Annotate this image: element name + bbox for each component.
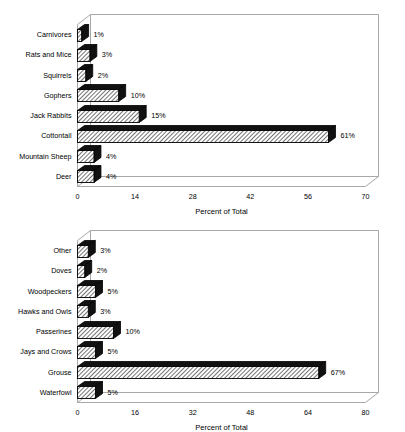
bar-jays-and-crows (78, 342, 103, 359)
value-label: 4% (106, 152, 117, 161)
value-label: 15% (151, 111, 166, 120)
bar-front-face (78, 30, 82, 42)
value-label: 10% (126, 327, 141, 336)
mammals-bar-chart: Carnivores1%Rats and Mice3%Squirrels2%Go… (0, 0, 405, 216)
value-label: 5% (108, 347, 119, 356)
x-tick-label: 0 (76, 408, 80, 417)
category-label: Deer (56, 172, 72, 181)
value-label: 4% (106, 172, 117, 181)
bar-doves (78, 261, 92, 278)
value-label: 67% (331, 368, 346, 377)
category-label: Gophers (44, 91, 72, 100)
bar-front-face (78, 387, 96, 399)
birds-chart-canvas: Other3%Doves2%Woodpeckers5%Hawks and Owl… (0, 216, 405, 432)
bar-top-face (78, 85, 126, 90)
bar-front-face (78, 286, 96, 298)
x-tick-label: 48 (246, 408, 254, 417)
value-label: 1% (94, 30, 105, 39)
bar-carnivores (78, 25, 89, 42)
bar-front-face (78, 171, 94, 183)
value-label: 2% (97, 266, 108, 275)
bar-front-face (78, 327, 114, 339)
bar-jack-rabbits (78, 106, 147, 123)
category-label: Squirrels (43, 71, 72, 80)
mammals-chart-canvas: Carnivores1%Rats and Mice3%Squirrels2%Go… (0, 0, 405, 216)
x-axis-title: Percent of Total (195, 207, 248, 216)
x-tick-label: 28 (189, 192, 197, 201)
x-axis-title: Percent of Total (195, 423, 248, 432)
value-label: 10% (131, 91, 146, 100)
x-tick-label: 80 (362, 408, 370, 417)
value-label: 5% (108, 287, 119, 296)
category-label: Woodpeckers (28, 287, 72, 296)
bar-other (78, 241, 96, 258)
value-label: 5% (108, 388, 119, 397)
bar-grouse (78, 362, 326, 379)
bar-cottontail (78, 126, 336, 143)
category-label: Carnivores (37, 30, 72, 39)
bar-waterfowl (78, 382, 103, 399)
value-label: 2% (98, 71, 109, 80)
bar-front-face (78, 347, 96, 359)
bar-front-face (78, 111, 140, 123)
bar-passerines (78, 322, 121, 339)
bar-front-face (78, 246, 89, 258)
category-label: Doves (51, 266, 72, 275)
category-label: Jack Rabbits (30, 111, 72, 120)
bar-hawks-and-owls (78, 301, 96, 318)
category-label: Hawks and Owls (18, 307, 72, 316)
birds-bar-chart: Other3%Doves2%Woodpeckers5%Hawks and Owl… (0, 216, 405, 432)
value-label: 3% (102, 50, 113, 59)
category-label: Cottontail (41, 131, 72, 140)
x-tick-label: 42 (246, 192, 254, 201)
bar-front-face (78, 70, 86, 82)
labels-group: Carnivores1%Rats and Mice3%Squirrels2%Go… (19, 30, 355, 181)
x-tick-label: 64 (304, 408, 312, 417)
chart-frame-3d (78, 15, 379, 187)
category-label: Mountain Sheep (19, 152, 71, 161)
x-axis-ticks: 01428425670 (76, 192, 370, 201)
value-label: 3% (100, 307, 111, 316)
category-label: Passerines (36, 327, 72, 336)
chart-page: Carnivores1%Rats and Mice3%Squirrels2%Go… (0, 0, 405, 432)
bar-mountain-sheep (78, 146, 101, 163)
bar-front-face (78, 90, 119, 102)
x-tick-label: 14 (131, 192, 139, 201)
bars-group (78, 241, 326, 399)
bar-front-face (78, 151, 94, 163)
x-tick-label: 16 (131, 408, 139, 417)
bar-front-face (78, 266, 85, 278)
x-tick-label: 56 (304, 192, 312, 201)
bar-gophers (78, 85, 126, 102)
bar-woodpeckers (78, 281, 103, 298)
x-tick-label: 32 (189, 408, 197, 417)
category-label: Waterfowl (40, 388, 72, 397)
category-label: Other (54, 246, 73, 255)
bar-deer (78, 166, 101, 183)
x-axis-ticks: 01632486480 (76, 408, 370, 417)
category-label: Grouse (48, 368, 72, 377)
bar-top-face (78, 362, 326, 367)
category-label: Rats and Mice (26, 50, 72, 59)
bar-front-face (78, 367, 319, 379)
bar-top-face (78, 106, 147, 111)
category-label: Jays and Crows (20, 347, 72, 356)
bar-front-face (78, 50, 90, 62)
bar-front-face (78, 306, 89, 318)
value-label: 3% (100, 246, 111, 255)
bar-front-face (78, 131, 329, 143)
bar-top-face (78, 126, 336, 131)
x-tick-label: 70 (362, 192, 370, 201)
bar-rats-and-mice (78, 45, 97, 62)
x-tick-label: 0 (76, 192, 80, 201)
value-label: 61% (340, 131, 355, 140)
